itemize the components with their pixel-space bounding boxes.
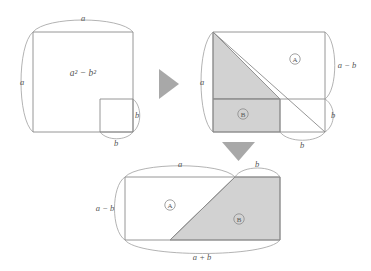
arrow-down	[222, 142, 255, 161]
step2-brace-left-label: a	[200, 77, 204, 87]
step1-area-label: a² − b²	[70, 68, 97, 78]
arrow-right-icon	[159, 69, 179, 99]
arrow-right	[159, 69, 179, 99]
step1-notch-square	[100, 99, 133, 132]
arrow-down-icon	[222, 142, 255, 161]
difference-of-squares-figure: a² − b² a a b b	[0, 0, 371, 271]
step3-brace-bottom-label: a + b	[193, 252, 212, 262]
step2-brace-right-upper-label: a − b	[338, 60, 357, 70]
step1-group: a² − b² a a b b	[20, 13, 140, 148]
step3-brace-top-right-label: b	[255, 159, 259, 169]
step3-brace-top-right	[235, 168, 280, 177]
step3-group: A B a b a − b a + b	[96, 159, 280, 262]
step1-brace-small-bottom-label: b	[114, 138, 118, 148]
step1-outer-square	[33, 32, 133, 132]
step3-brace-left-label: a − b	[96, 203, 115, 213]
step2-shaded-triangle	[213, 32, 280, 99]
step2-brace-right-lower-label: b	[331, 110, 335, 120]
step3-brace-left	[115, 177, 126, 240]
step3-piece-b-label: B	[237, 216, 242, 224]
step1-brace-top-label: a	[81, 13, 85, 23]
step3-brace-top-left-label: a	[178, 159, 182, 169]
step2-brace-bottom-label: b	[300, 140, 304, 150]
step3-piece-a-label: A	[167, 202, 172, 210]
step2-piece-a-badge: A	[290, 54, 300, 65]
step2-piece-a-label: A	[292, 56, 297, 64]
step2-brace-right-upper	[325, 32, 335, 99]
step2-brace-bottom	[280, 132, 325, 140]
step3-piece-a-badge: A	[165, 200, 175, 211]
step2-group: A B a a − b b b	[200, 32, 356, 150]
step2-piece-b-label: B	[241, 111, 246, 119]
diagram-canvas: a² − b² a a b b	[0, 0, 371, 271]
step2-piece-b-rect	[213, 99, 280, 132]
step1-brace-left-label: a	[20, 77, 24, 87]
step1-brace-small-right-label: b	[135, 110, 139, 120]
